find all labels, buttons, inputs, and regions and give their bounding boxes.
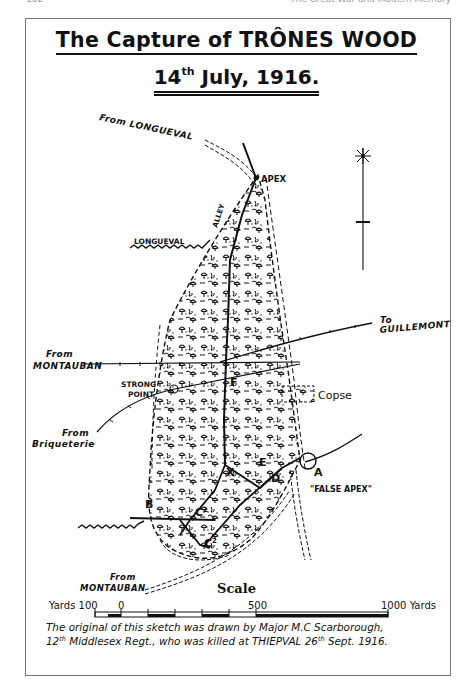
scale-left-label: Yards 100: [49, 600, 98, 611]
label-longueval-alley: LONGUEVAL: [134, 237, 185, 246]
trones-wood: [149, 175, 305, 558]
scale-bar: [95, 609, 388, 617]
map-caption: The original of this sketch was drawn by…: [46, 621, 446, 647]
point-d: D: [271, 472, 280, 485]
point-f: F: [230, 376, 238, 389]
scale-zero-label: 0: [118, 600, 124, 611]
label-false-apex: "FALSE APEX": [310, 485, 372, 494]
label-copse: Copse: [318, 389, 352, 402]
caption-line-2: 12th Middlesex Regt., who was killed at …: [46, 633, 446, 647]
label-apex: APEX: [261, 174, 287, 184]
label-from-longueval: From LONGUEVAL: [99, 112, 195, 142]
label-point: POINT: [128, 390, 155, 399]
point-a: A: [314, 466, 323, 479]
caption-line-1: The original of this sketch was drawn by…: [46, 621, 446, 633]
apex-point: [254, 176, 259, 181]
label-briqueterie: Briqueterie: [32, 439, 95, 449]
label-montauban: MONTAUBAN: [33, 361, 102, 371]
road-south-from-a: [290, 470, 311, 560]
north-arrow: [355, 148, 371, 270]
scale-mid-label: 500: [248, 600, 267, 611]
road-north-east-of-a: [305, 434, 362, 462]
scale-right-label: 1000 Yards: [381, 600, 436, 611]
label-strong: STRONG: [121, 380, 156, 389]
scale-title: Scale: [0, 581, 473, 596]
copse-area: [282, 386, 314, 402]
point-b: B: [145, 498, 153, 511]
label-from-briqueterie: From: [62, 428, 89, 438]
trench-west-of-b: [78, 521, 144, 528]
point-e: E: [259, 456, 267, 469]
point-x: X: [226, 466, 235, 479]
label-from-montauban: From: [46, 349, 73, 359]
